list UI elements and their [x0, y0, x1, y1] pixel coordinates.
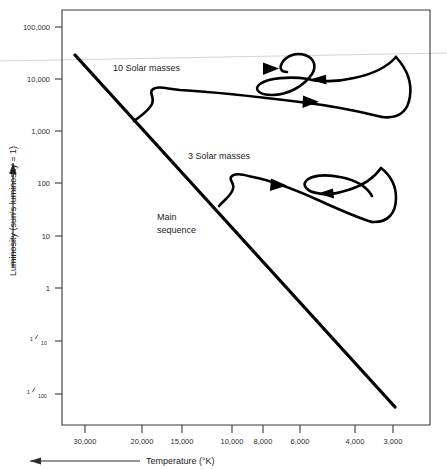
x-tick-label: 15,000	[171, 437, 194, 446]
y-tick-label: 1	[46, 284, 50, 293]
annotation-main-sequence-line1: Main	[157, 212, 177, 222]
x-tick-label: 4,000	[346, 437, 365, 446]
y-tick-label: 10,000	[27, 75, 50, 84]
annotation-main-sequence-line2: sequence	[157, 225, 196, 235]
x-axis-title: Temperature (°K)	[146, 456, 215, 466]
x-tick-label: 20,000	[131, 437, 154, 446]
fraction-denominator: 10	[41, 340, 47, 346]
x-tick-label: 10,000	[221, 437, 244, 446]
y-tick-label: 100	[37, 179, 50, 188]
y-axis-title-group: Luminosity (sun's luminosity = 1)	[8, 146, 18, 276]
x-tick-label: 3,000	[384, 437, 403, 446]
annotation-10-solar-masses: 10 Solar masses	[113, 63, 181, 73]
y-tick-label: 1,000	[31, 127, 50, 136]
y-tick-label: 100,000	[23, 23, 50, 32]
y-axis-title: Luminosity (sun's luminosity = 1)	[8, 146, 18, 276]
x-tick-label: 30,000	[74, 437, 97, 446]
fraction-numerator: 1	[27, 389, 30, 395]
fraction-denominator: 100	[38, 393, 47, 399]
fraction-numerator: 1	[30, 336, 33, 342]
hr-diagram-chart: 100,000 10,000 1,000 100 10 1 1 10 1 100…	[0, 0, 447, 469]
x-tick-label: 8,000	[254, 437, 273, 446]
annotation-3-solar-masses: 3 Solar masses	[188, 151, 251, 161]
x-tick-label: 6,000	[291, 437, 310, 446]
y-tick-label: 10	[42, 232, 50, 241]
